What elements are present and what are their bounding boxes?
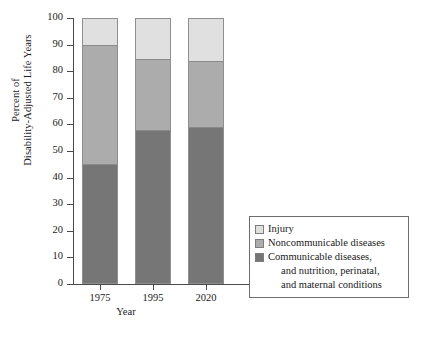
bar-segment-1995-noncommunicable-diseases	[136, 59, 170, 130]
y-axis-title: Percent of Disability-Adjusted Life Year…	[4, 0, 40, 200]
y-tick-90: 90	[67, 45, 73, 46]
y-tick-30: 30	[67, 204, 73, 205]
legend-swatch-communicable	[255, 253, 264, 262]
y-tick-80: 80	[67, 71, 73, 72]
x-tick-label-2020: 2020	[196, 292, 217, 303]
x-axis-title: Year	[116, 306, 135, 317]
bar-segment-1995-communicable-diseases	[136, 130, 170, 283]
y-tick-20: 20	[67, 231, 73, 232]
bar-1975	[82, 18, 118, 284]
bar-segment-1975-injury	[83, 19, 117, 45]
y-tick-label-0: 0	[58, 277, 63, 288]
y-tick-60: 60	[67, 124, 73, 125]
y-tick-label-10: 10	[53, 250, 64, 261]
bar-segment-2020-injury	[189, 19, 223, 61]
bar-segment-1975-noncommunicable-diseases	[83, 45, 117, 164]
y-tick-label-30: 30	[53, 197, 64, 208]
y-tick-label-60: 60	[53, 117, 64, 128]
legend-item-noncommunicable: Noncommunicable diseases	[255, 236, 402, 249]
y-axis-title-line-1: Percent of	[10, 78, 22, 122]
legend-label-injury: Injury	[268, 222, 294, 235]
y-axis-line	[73, 18, 74, 284]
bar-segment-1995-injury	[136, 19, 170, 59]
legend-label-noncommunicable: Noncommunicable diseases	[268, 236, 385, 249]
bar-segment-2020-communicable-diseases	[189, 127, 223, 283]
y-tick-label-90: 90	[53, 38, 64, 49]
x-tick-1995	[153, 284, 154, 290]
bar-2020	[188, 18, 224, 284]
y-tick-label-70: 70	[53, 91, 64, 102]
x-tick-1975	[100, 284, 101, 290]
x-tick-label-1975: 1975	[90, 292, 111, 303]
legend-label-communicable-line3: and maternal conditions	[255, 278, 402, 291]
x-tick-label-1995: 1995	[143, 292, 164, 303]
y-tick-40: 40	[67, 178, 73, 179]
y-tick-50: 50	[67, 151, 73, 152]
legend-item-communicable: Communicable diseases,	[255, 250, 402, 263]
legend-item-injury: Injury	[255, 222, 402, 235]
y-tick-label-20: 20	[53, 224, 64, 235]
legend-label-communicable-line2: and nutrition, perinatal,	[255, 264, 402, 277]
legend-label-communicable: Communicable diseases,	[268, 250, 372, 263]
y-tick-label-40: 40	[53, 171, 64, 182]
bar-segment-2020-noncommunicable-diseases	[189, 61, 223, 127]
legend: Injury Noncommunicable diseases Communic…	[249, 216, 409, 298]
plot-area: 1009080706050403020100 197519952020 Year	[73, 18, 228, 284]
bar-1995	[135, 18, 171, 284]
stacked-bar-chart: Percent of Disability-Adjusted Life Year…	[0, 0, 422, 337]
y-tick-100: 100	[67, 18, 73, 19]
y-tick-0: 0	[67, 284, 73, 285]
y-tick-10: 10	[67, 257, 73, 258]
y-tick-label-100: 100	[47, 11, 63, 22]
y-tick-label-80: 80	[53, 64, 64, 75]
legend-swatch-injury	[255, 225, 264, 234]
x-tick-2020	[206, 284, 207, 290]
legend-swatch-noncommunicable	[255, 239, 264, 248]
y-axis-title-line-2: Disability-Adjusted Life Years	[22, 34, 34, 166]
y-tick-label-50: 50	[53, 144, 64, 155]
y-tick-70: 70	[67, 98, 73, 99]
bar-segment-1975-communicable-diseases	[83, 164, 117, 283]
